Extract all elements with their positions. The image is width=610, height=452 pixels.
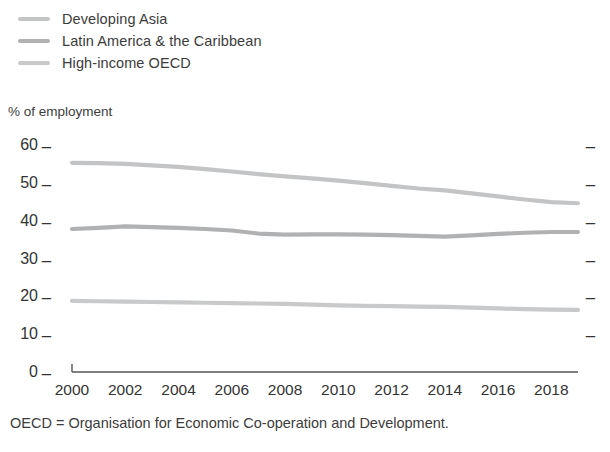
y-axis-tick-label: 10 [4,325,38,343]
y-axis-title: % of employment [8,104,112,119]
y-axis-tick-mark-right: _ [586,169,595,187]
y-axis-tick-label: 50 [4,174,38,192]
x-axis-tick-label: 2006 [206,381,258,399]
x-axis-tick-label: 2010 [312,381,364,399]
y-axis-tick-label: 20 [4,287,38,305]
legend-item-high-income-oecd: High-income OECD [18,52,578,74]
y-axis-tick-mark-left: _ [42,282,51,300]
y-axis-tick-mark-left: _ [42,358,51,376]
legend-item-latin-america: Latin America & the Caribbean [18,30,578,52]
legend-item-developing-asia: Developing Asia [18,8,578,30]
series-line-2 [72,301,578,310]
y-axis-tick-mark-left: _ [42,131,51,149]
x-axis-tick-label: 2002 [99,381,151,399]
x-axis-tick-label: 2000 [46,381,98,399]
x-axis-tick-label: 2012 [366,381,418,399]
line-swatch-icon [18,39,50,43]
y-axis-tick-mark-right: _ [586,245,595,263]
legend-item-label: Developing Asia [62,11,168,27]
chart-legend: Developing Asia Latin America & the Cari… [18,8,578,74]
legend-item-label: High-income OECD [62,55,191,71]
y-axis-tick-mark-right: _ [586,282,595,300]
y-axis-tick-mark-left: _ [42,169,51,187]
x-axis-tick-label: 2018 [525,381,577,399]
y-axis-tick-mark-right: _ [586,131,595,149]
y-axis-tick-label: 40 [4,212,38,230]
line-swatch-icon [18,17,50,21]
y-axis-tick-mark-left: _ [42,320,51,338]
x-axis-tick-label: 2016 [472,381,524,399]
footnote-abbreviation: OECD = Organisation for Economic Co-oper… [10,415,449,431]
series-line-1 [72,226,578,236]
y-axis-tick-label: 30 [4,250,38,268]
x-axis-tick-label: 2004 [153,381,205,399]
y-axis-tick-mark-right: _ [586,320,595,338]
y-axis-tick-mark-left: _ [42,245,51,263]
y-axis-tick-label: 0 [4,363,38,381]
x-axis-tick-label: 2008 [259,381,311,399]
y-axis-tick-mark-right: _ [586,207,595,225]
y-axis-tick-mark-left: _ [42,207,51,225]
line-swatch-icon [18,61,50,65]
legend-item-label: Latin America & the Caribbean [62,33,262,49]
x-axis-tick-label: 2014 [419,381,471,399]
series-line-0 [72,163,578,203]
y-axis-tick-label: 60 [4,136,38,154]
